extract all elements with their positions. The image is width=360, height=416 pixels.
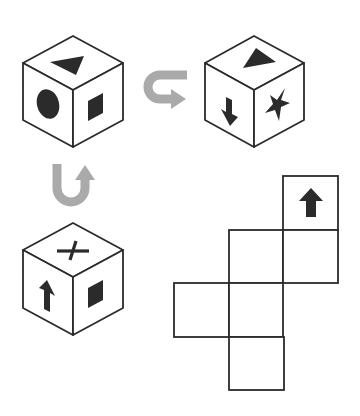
net-cell-r1-c1 [229,230,283,283]
cube-3 [23,223,123,335]
cube-net [174,176,338,390]
u-turn-right-arrow-icon [148,75,187,109]
net-cell-r1-c2 [283,230,338,283]
net-cell-r2-c0 [174,283,229,337]
cube-2 [205,36,304,147]
net-cell-r2-c1 [229,283,283,337]
net-cell-r3-c1 [229,337,284,390]
cube-1 [23,36,123,147]
u-turn-up-arrow-icon [57,164,95,202]
cube-net-puzzle [0,0,360,416]
